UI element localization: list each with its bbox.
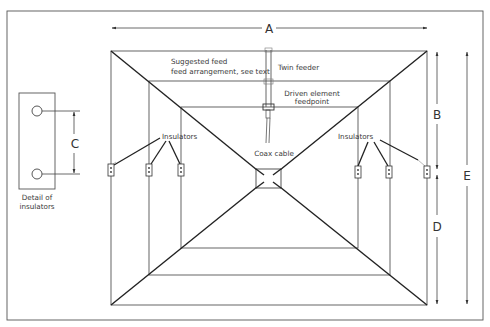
coax-cable — [266, 118, 270, 143]
dimension-c-label: C — [71, 137, 79, 151]
insulator-detail-plate — [19, 93, 55, 189]
center-hub — [256, 169, 281, 188]
twin-feeder-label: Twin feeder — [277, 63, 319, 72]
insulators-left-label: Insulators — [162, 132, 198, 141]
driven-element-label-line2: feedpoint — [295, 97, 329, 106]
dimension-e-label: E — [463, 169, 471, 183]
dimension-a-label: A — [265, 22, 274, 36]
insulator-detail-caption-line2: insulators — [19, 202, 54, 211]
dimension-a: A — [112, 22, 427, 36]
insulators-right-label: Insulators — [338, 132, 374, 141]
outer-border — [7, 11, 483, 320]
insulator-detail: C Detail of insulators — [19, 93, 80, 211]
suggested-feed-label-line2: feed arrangement, see text — [171, 67, 270, 76]
dimension-b-label: B — [433, 108, 441, 122]
insulator-icon — [108, 164, 114, 176]
suggested-feed-label-line1: Suggested feed — [171, 57, 227, 66]
dimension-e: E — [463, 52, 471, 304]
insulator-detail-caption-line1: Detail of — [22, 193, 53, 202]
dimension-b: B — [433, 52, 441, 169]
insulator-icon — [146, 164, 152, 176]
insulator-hole-top — [32, 106, 42, 116]
quad-antenna-diagram: A — [0, 0, 490, 327]
dimension-d: D — [432, 175, 441, 304]
insulator-icon — [424, 166, 430, 178]
dimension-d-label: D — [432, 220, 441, 234]
insulator-icon — [178, 164, 184, 176]
insulators-left: Insulators — [108, 132, 198, 176]
insulator-icon — [386, 166, 392, 178]
twin-feeder — [263, 48, 274, 118]
insulator-icon — [355, 166, 361, 178]
insulator-hole-bottom — [32, 169, 42, 179]
coax-cable-label: Coax cable — [254, 149, 294, 158]
insulators-right: Insulators — [338, 132, 430, 178]
